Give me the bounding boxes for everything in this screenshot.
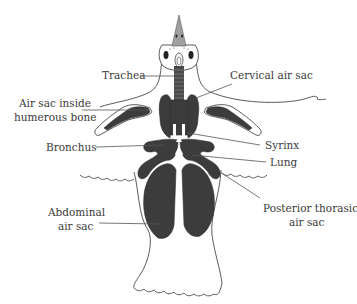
nostril-right	[181, 34, 183, 37]
label-syrinx: Syrinx	[265, 139, 299, 151]
eye-left	[164, 51, 169, 59]
label-posterior-thoracic-line2: air sac	[289, 216, 325, 228]
label-bronchus: Bronchus	[46, 141, 97, 153]
nostril-left	[176, 34, 178, 37]
bird-respiratory-diagram: Trachea Cervical air sac Air sac inside …	[0, 0, 357, 304]
abdominal-air-sacs	[144, 164, 215, 239]
humerus-left	[95, 105, 152, 136]
label-cervical-air-sac: Cervical air sac	[230, 69, 313, 81]
bird-head	[159, 15, 198, 71]
cervical-air-sacs	[159, 95, 199, 138]
trachea	[174, 66, 184, 102]
label-abdominal-line1: Abdominal	[47, 206, 106, 218]
leader-cervical	[196, 84, 232, 98]
label-abdominal-line2: air sac	[58, 220, 94, 232]
lungs	[138, 136, 220, 179]
beak	[172, 15, 186, 46]
humerus-right	[204, 105, 261, 136]
label-lung: Lung	[270, 156, 297, 168]
label-posterior-thoracic-line1: Posterior thorasic	[263, 202, 357, 214]
eye-right	[189, 51, 194, 59]
leader-posterior-thoracic	[220, 172, 260, 198]
label-humerus-line1: Air sac inside	[18, 97, 91, 109]
label-trachea: Trachea	[102, 69, 145, 81]
label-humerus-line2: humerous bone	[14, 111, 97, 123]
